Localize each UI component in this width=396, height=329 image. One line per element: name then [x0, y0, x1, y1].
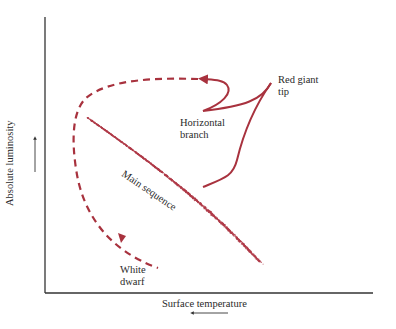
- track-red-giant-to-horizontal-branch: [203, 79, 271, 111]
- x-axis-label: Surface temperature: [162, 298, 247, 309]
- main-sequence-scatter: [87, 117, 264, 265]
- white-dwarf-label: White dwarf: [120, 264, 146, 288]
- white-dwarf-direction-arrowhead: [118, 233, 126, 243]
- y-axis-label: Absolute luminosity: [4, 121, 15, 206]
- red-giant-tip-label: Red giant tip: [278, 74, 319, 98]
- horizontal-branch-label: Horizontal branch: [180, 117, 225, 141]
- hr-diagram: [0, 0, 396, 329]
- track-horizontal-branch-to-white-dwarf: [74, 79, 198, 268]
